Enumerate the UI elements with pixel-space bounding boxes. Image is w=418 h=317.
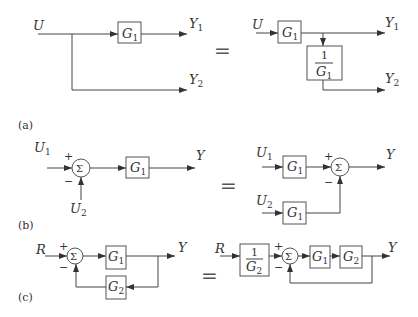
input-label-u1: U1 — [34, 140, 51, 157]
sign-minus: − — [274, 261, 283, 274]
fraction-numerator: 1 — [251, 246, 258, 259]
caption-a: (a) — [18, 119, 33, 132]
part-a-right: U G1 Y1 1 G1 Y2 — [252, 15, 399, 90]
output-label-y: Y — [386, 147, 396, 162]
caption-b: (b) — [18, 219, 34, 232]
sign-plus: + — [324, 150, 333, 163]
part-c-left: R Σ + − G1 Y G2 — [35, 240, 188, 299]
sign-minus: − — [59, 261, 68, 274]
signal-line — [306, 176, 340, 213]
block-diagram-figure: U G1 Y1 Y2 = U G1 Y1 1 G1 Y2 (a) U1 Σ + … — [0, 0, 418, 317]
caption-c: (c) — [18, 291, 33, 304]
sign-minus: − — [324, 176, 333, 189]
input-label-r: R — [35, 242, 46, 257]
sigma-symbol: Σ — [335, 162, 342, 173]
feedback-line — [126, 256, 158, 287]
input-label-u1: U1 — [256, 145, 273, 162]
sigma-symbol: Σ — [76, 163, 83, 174]
sign-plus: + — [64, 150, 73, 163]
input-label-u: U — [33, 18, 45, 33]
input-label-r: R — [214, 241, 225, 256]
sigma-symbol: Σ — [70, 251, 77, 262]
output-label-y2: Y2 — [189, 72, 203, 89]
part-c-right: R 1 G2 Σ + − G1 G2 Y — [214, 240, 398, 283]
sigma-symbol: Σ — [285, 251, 292, 262]
sign-plus: + — [274, 240, 283, 253]
equals-sign: = — [220, 174, 237, 198]
part-b-right: U1 G1 Σ + − Y U2 G1 — [256, 145, 396, 224]
part-b-left: U1 Σ + − U2 G1 Y — [34, 140, 206, 218]
equals-sign: = — [201, 264, 218, 288]
input-label-u: U — [252, 17, 264, 32]
input-label-u2: U2 — [70, 201, 87, 218]
part-a-left: U G1 Y1 Y2 — [33, 16, 203, 90]
output-label-y: Y — [196, 148, 206, 163]
output-label-y1: Y1 — [189, 16, 203, 33]
input-label-u2: U2 — [256, 193, 273, 210]
signal-line — [323, 80, 385, 90]
equals-sign: = — [214, 39, 231, 63]
output-label-y1: Y1 — [385, 15, 399, 32]
sign-minus: − — [64, 175, 73, 188]
output-label-y2: Y2 — [385, 71, 399, 88]
output-label-y: Y — [178, 240, 188, 255]
sign-plus: + — [59, 240, 68, 253]
output-label-y: Y — [388, 240, 398, 255]
fraction-numerator: 1 — [321, 49, 328, 62]
feedback-line — [76, 264, 106, 287]
